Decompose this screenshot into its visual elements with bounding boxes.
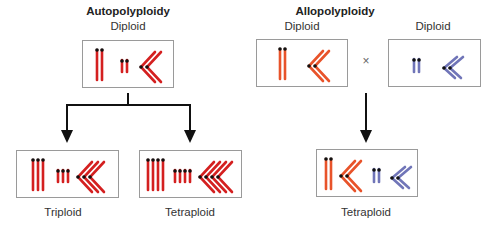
auto-triploid-label: Triploid (44, 206, 81, 218)
auto-triploid-chromosomes (17, 151, 120, 199)
allo-diploid-label-1: Diploid (284, 20, 319, 32)
auto-tetraploid-chromosomes (140, 151, 243, 199)
arrow-down-icon (61, 130, 73, 143)
arrow-down-icon (184, 130, 196, 143)
allo-diploid-box-orange (256, 39, 348, 87)
allo-tetraploid-box (316, 149, 418, 197)
auto-tetraploid-box (139, 150, 242, 198)
allo-diploid-orange-chromosomes (257, 40, 349, 88)
allo-diploid-box-blue (388, 39, 481, 87)
allo-tetraploid-label: Tetraploid (341, 206, 391, 218)
allo-diploid-label-2: Diploid (415, 20, 450, 32)
auto-tetraploid-label: Tetraploid (165, 206, 215, 218)
arrow-down-icon (360, 130, 372, 143)
allo-diploid-blue-chromosomes (389, 40, 482, 88)
allopolyploidy-title: Allopolyploidy (295, 5, 374, 17)
auto-triploid-box (16, 150, 119, 198)
cross-symbol: × (362, 54, 369, 68)
allo-tetraploid-chromosomes (317, 150, 419, 198)
